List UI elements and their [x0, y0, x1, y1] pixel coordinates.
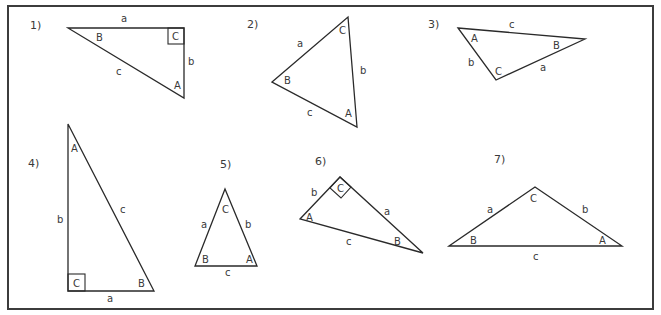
side-label-a: a	[540, 62, 546, 73]
vertex-label-c: C	[73, 278, 80, 289]
triangle-7: 7) C a b B A c	[449, 153, 622, 262]
side-label-b: b	[582, 204, 588, 215]
side-label-a: a	[487, 204, 493, 215]
side-label-b: b	[245, 219, 251, 230]
outer-frame	[8, 6, 653, 309]
triangle-diagram: 1) a B C b c A 2) a C b B c A 3) c A B b…	[0, 0, 661, 315]
side-label-c: c	[346, 236, 352, 247]
side-label-c: c	[533, 251, 539, 262]
triangle-1: 1) a B C b c A	[30, 13, 194, 98]
side-label-c: c	[116, 66, 122, 77]
triangle-shape	[68, 124, 154, 291]
vertex-label-a: A	[599, 235, 606, 246]
side-label-c: c	[225, 267, 231, 278]
triangle-number-label: 2)	[247, 18, 258, 31]
side-label-b: b	[360, 65, 366, 76]
triangle-number-label: 3)	[428, 18, 439, 31]
triangle-3: 3) c A B b C a	[428, 18, 585, 80]
side-label-b: b	[468, 57, 474, 68]
triangle-number-label: 5)	[220, 158, 231, 171]
side-label-b: b	[311, 187, 317, 198]
vertex-label-a: A	[471, 33, 478, 44]
vertex-label-c: C	[495, 66, 502, 77]
vertex-label-b: B	[202, 254, 209, 265]
vertex-label-b: B	[553, 40, 560, 51]
vertex-label-a: A	[345, 108, 352, 119]
triangle-number-label: 6)	[315, 155, 326, 168]
triangle-number-label: 1)	[30, 19, 41, 32]
triangle-6: 6) b C a A c B	[300, 155, 423, 253]
vertex-label-c: C	[222, 204, 229, 215]
vertex-label-c: C	[530, 193, 537, 204]
side-label-a: a	[297, 38, 303, 49]
vertex-label-b: B	[470, 235, 477, 246]
side-label-c: c	[509, 19, 515, 30]
side-label-b: b	[188, 56, 194, 67]
vertex-label-a: A	[246, 254, 253, 265]
triangle-2: 2) a C b B c A	[247, 17, 366, 127]
triangle-shape	[300, 177, 423, 253]
vertex-label-a: A	[174, 80, 181, 91]
triangle-number-label: 4)	[28, 157, 39, 170]
vertex-label-b: B	[138, 278, 145, 289]
vertex-label-a: A	[71, 143, 78, 154]
side-label-c: c	[120, 204, 126, 215]
triangle-number-label: 7)	[494, 153, 505, 166]
vertex-label-b: B	[96, 32, 103, 43]
side-label-a: a	[107, 293, 113, 304]
vertex-label-c: C	[339, 25, 346, 36]
side-label-c: c	[307, 107, 313, 118]
side-label-a: a	[201, 219, 207, 230]
vertex-label-b: B	[394, 236, 401, 247]
side-label-b: b	[57, 214, 63, 225]
triangle-shape	[68, 28, 184, 98]
vertex-label-b: B	[284, 75, 291, 86]
side-label-a: a	[121, 13, 127, 24]
triangle-5: 5) C a b B A c	[195, 158, 257, 278]
side-label-a: a	[384, 206, 390, 217]
triangle-4: 4) A c b C B a	[28, 124, 154, 304]
vertex-label-c: C	[172, 31, 179, 42]
vertex-label-c: C	[337, 183, 344, 194]
vertex-label-a: A	[306, 212, 313, 223]
